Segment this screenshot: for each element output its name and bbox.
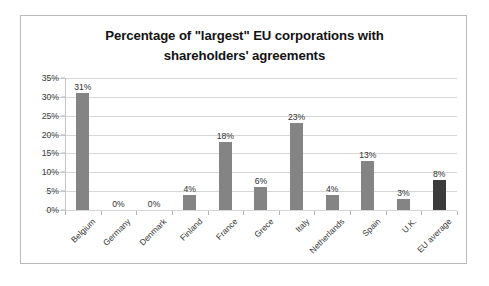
bar-value-label: 0% (134, 199, 174, 209)
bar[interactable] (76, 93, 89, 210)
bar-slot: 3% (386, 78, 422, 210)
bar-value-label: 31% (63, 82, 103, 92)
bar[interactable] (433, 180, 446, 210)
y-axis-tick-label: 0% (47, 206, 59, 215)
y-axis-tick-label: 30% (42, 92, 59, 101)
bar-slot: 23% (279, 78, 315, 210)
bar-slot: 0% (101, 78, 137, 210)
bar-slot: 18% (208, 78, 244, 210)
bar-value-label: 13% (348, 150, 388, 160)
bar-value-label: 0% (98, 199, 138, 209)
y-axis-tick-label: 5% (47, 187, 59, 196)
x-axis-category-label: Belgium (34, 217, 97, 280)
chart-title-line-2: shareholders' agreements (35, 46, 454, 66)
x-axis-category-labels: BelgiumGermanyDenmarkFinlandFranceGreceI… (65, 214, 457, 264)
bar-slot: 0% (136, 78, 172, 210)
bar[interactable] (397, 199, 410, 210)
bar-slot: 8% (421, 78, 457, 210)
bar-slot: 31% (65, 78, 101, 210)
bar[interactable] (290, 123, 303, 210)
bar-value-label: 3% (384, 188, 424, 198)
bar-value-label: 6% (241, 176, 281, 186)
y-axis: 0%5%10%15%20%25%30%35% (21, 70, 61, 218)
bar-slot: 4% (172, 78, 208, 210)
bar[interactable] (254, 187, 267, 210)
bar[interactable] (219, 142, 232, 210)
bars-layer: 31%0%0%4%18%6%23%4%13%3%8% (65, 78, 457, 210)
y-axis-tick-label: 35% (42, 74, 59, 83)
y-axis-tick-label: 20% (42, 130, 59, 139)
bar[interactable] (183, 195, 196, 210)
y-axis-tick-label: 15% (42, 149, 59, 158)
x-axis-tick-mark (457, 211, 458, 215)
bar-value-label: 23% (277, 112, 317, 122)
bar-slot: 6% (243, 78, 279, 210)
chart-frame: Percentage of "largest" EU corporations … (20, 15, 467, 264)
y-axis-tick-label: 25% (42, 111, 59, 120)
bar[interactable] (326, 195, 339, 210)
bar[interactable] (361, 161, 374, 210)
bar-slot: 13% (350, 78, 386, 210)
bar-slot: 4% (314, 78, 350, 210)
bar-value-label: 18% (205, 131, 245, 141)
y-axis-tick-label: 10% (42, 168, 59, 177)
bar-value-label: 4% (312, 184, 352, 194)
bar-value-label: 8% (419, 169, 459, 179)
chart-title-line-1: Percentage of "largest" EU corporations … (35, 26, 454, 46)
bar-value-label: 4% (170, 184, 210, 194)
chart-title: Percentage of "largest" EU corporations … (35, 26, 454, 66)
